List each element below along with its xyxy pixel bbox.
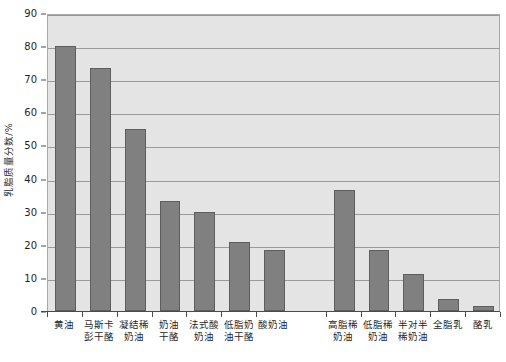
bar-series	[48, 15, 499, 311]
x-axis-tick-marks	[47, 312, 500, 317]
x-axis-category-label-line: 酪乳	[461, 319, 504, 331]
x-axis-tick-mark	[500, 312, 501, 317]
y-axis-tick-labels: 0102030405060708090	[14, 14, 40, 312]
y-axis-tick-mark	[41, 212, 46, 213]
y-axis-tick-label: 30	[24, 208, 37, 218]
x-axis-category-label: 酪乳	[461, 319, 504, 331]
y-axis-tick-mark	[41, 146, 46, 147]
y-axis-tick-mark	[41, 14, 46, 15]
x-axis-tick-mark	[221, 312, 222, 317]
x-axis-tick-mark	[465, 312, 466, 317]
y-axis-tick-label: 70	[24, 75, 37, 85]
x-axis-tick-mark	[117, 312, 118, 317]
bar-chart: 乳脂质量分数/% 0102030405060708090 黄油马斯卡彭干酪凝结稀…	[0, 0, 506, 362]
bar	[334, 190, 355, 311]
y-axis-tick-label: 0	[31, 307, 37, 317]
plot-area	[47, 14, 500, 312]
y-axis-tick-label: 90	[24, 9, 37, 19]
bar	[55, 46, 76, 311]
x-axis-tick-mark	[82, 312, 83, 317]
bar	[90, 68, 111, 311]
y-axis-tick-mark	[41, 278, 46, 279]
y-axis-title-text: 乳脂质量分数/%	[1, 123, 15, 197]
y-axis-tick-label: 40	[24, 175, 37, 185]
y-axis-tick-mark	[41, 80, 46, 81]
y-axis-tick-label: 50	[24, 141, 37, 151]
x-axis-tick-mark	[256, 312, 257, 317]
x-axis-tick-mark	[395, 312, 396, 317]
bar	[194, 212, 215, 311]
bar	[438, 299, 459, 311]
x-axis-tick-mark	[361, 312, 362, 317]
y-axis-tick-label: 80	[24, 42, 37, 52]
y-axis-tick-mark	[41, 47, 46, 48]
y-axis-tick-mark	[41, 245, 46, 246]
y-axis-tick-label: 20	[24, 241, 37, 251]
x-axis-category-label-line: 稀奶油	[391, 331, 434, 343]
x-axis-tick-mark	[326, 312, 327, 317]
bar	[160, 201, 181, 311]
x-axis-category-labels: 黄油马斯卡彭干酪凝结稀奶油奶油干酪法式酸奶油低脂奶油干酪酸奶油高脂稀奶油低脂稀奶…	[47, 319, 500, 359]
y-axis-tick-label: 60	[24, 108, 37, 118]
y-axis-tick-label: 10	[24, 274, 37, 284]
x-axis-category-label: 酸奶油	[252, 319, 295, 331]
x-axis-tick-mark	[152, 312, 153, 317]
x-axis-category-label-line: 酸奶油	[252, 319, 295, 331]
bar	[403, 274, 424, 311]
x-axis-tick-mark	[186, 312, 187, 317]
bar	[369, 250, 390, 311]
bar	[229, 242, 250, 311]
y-axis-tick-mark	[41, 113, 46, 114]
x-axis-category-label-line: 油干酪	[217, 331, 260, 343]
x-axis-tick-mark	[430, 312, 431, 317]
y-axis-tick-mark	[41, 179, 46, 180]
x-axis-tick-mark	[47, 312, 48, 317]
bar	[125, 129, 146, 311]
bar	[264, 250, 285, 311]
